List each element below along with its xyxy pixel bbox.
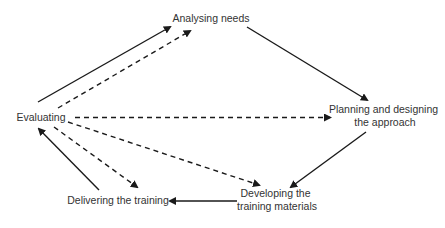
node-delivering-training: Delivering the training xyxy=(67,194,169,206)
edge-evaluating-to-analysing-solid xyxy=(38,27,170,102)
edge-evaluating-to-analysing-dashed xyxy=(58,31,190,108)
edge-analysing-to-planning xyxy=(247,27,367,100)
node-analysing-needs: Analysing needs xyxy=(172,12,249,24)
training-cycle-diagram: Analysing needs Planning and designing t… xyxy=(0,0,445,228)
node-developing-materials: Developing the training materials xyxy=(237,187,317,212)
node-evaluating: Evaluating xyxy=(16,111,65,123)
edge-planning-to-developing xyxy=(291,132,366,187)
node-planning-and-designing: Planning and designing the approach xyxy=(329,103,441,128)
edge-evaluating-to-developing-dashed xyxy=(68,122,259,185)
